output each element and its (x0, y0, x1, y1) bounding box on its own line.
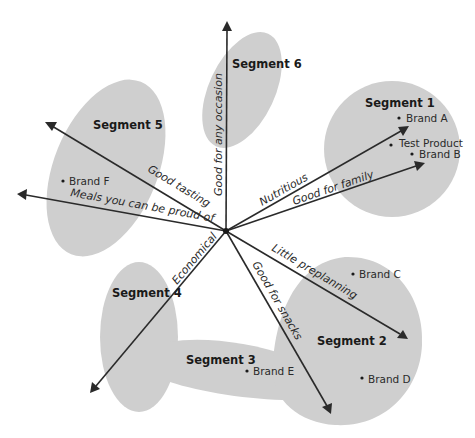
brand-c: Brand C (351, 268, 401, 280)
label-good-for-any-occasion: Good for any occasion (212, 73, 225, 196)
arrowhead-icon (222, 21, 232, 31)
origin-point (223, 228, 229, 234)
brand-f: Brand F (61, 175, 109, 187)
segment-1-label: Segment 1 (365, 96, 435, 110)
label-economical: Economical (169, 230, 219, 287)
brand-dot (397, 116, 400, 119)
segment-5-label: Segment 5 (93, 118, 163, 132)
brand-d-label: Brand D (368, 373, 411, 385)
brand-f-label: Brand F (69, 175, 110, 187)
brand-a-label: Brand A (406, 112, 449, 124)
brand-e-label: Brand E (253, 365, 294, 377)
brand-dot (360, 376, 363, 379)
segment-5-shape (23, 62, 189, 273)
brand-dot (61, 179, 64, 182)
segment-3-label: Segment 3 (186, 353, 256, 367)
brand-c-label: Brand C (359, 268, 401, 280)
perceptual-map: Good for any occasion Good tasting Meals… (0, 0, 475, 438)
brand-d: Brand D (360, 373, 410, 385)
brand-dot (410, 152, 413, 155)
axis-good-for-any-occasion (226, 30, 227, 231)
segment-4-label: Segment 4 (112, 286, 182, 300)
brand-b-label: Brand B (419, 148, 461, 160)
brand-dot (245, 369, 248, 372)
brand-dot (351, 272, 354, 275)
segment-4-shape (100, 262, 178, 412)
brand-e: Brand E (245, 365, 294, 377)
arrowhead-icon (45, 122, 57, 131)
segment-6-shape (186, 20, 298, 160)
segment-2-label: Segment 2 (317, 334, 387, 348)
brand-a: Brand A (397, 112, 448, 124)
segment-6-label: Segment 6 (232, 57, 302, 71)
brand-dot (389, 143, 392, 146)
arrowhead-icon (17, 189, 27, 200)
